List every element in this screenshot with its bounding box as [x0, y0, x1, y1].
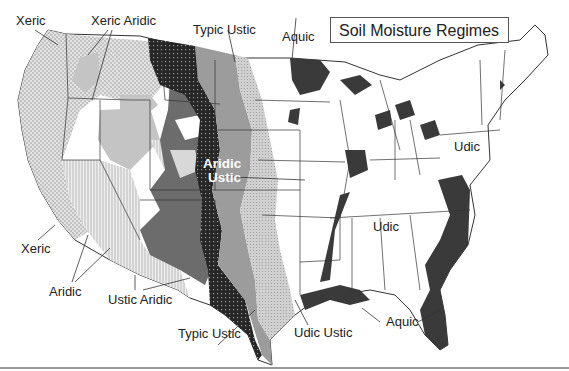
label-udic-pa: Udic [454, 140, 480, 153]
label-udic-south: Udic [373, 220, 399, 233]
label-xeric-ca: Xeric [21, 242, 51, 255]
label-aridic-sw: Aridic [49, 285, 82, 298]
label-typic-ustic-south: Typic Ustic [178, 327, 241, 340]
soil-moisture-map [0, 0, 569, 371]
label-aridic-ustic-2: Ustic [208, 171, 241, 185]
map-title: Soil Moisture Regimes [339, 22, 499, 40]
label-ustic-aridic: Ustic Aridic [108, 293, 172, 306]
map-title-box: Soil Moisture Regimes [330, 17, 509, 43]
label-xeric-aridic: Xeric Aridic [91, 14, 156, 27]
label-udic-ustic: Udic Ustic [294, 326, 353, 339]
label-aquic-south: Aquic [386, 315, 419, 328]
label-typic-ustic-north: Typic Ustic [193, 23, 256, 36]
label-xeric-nw: Xeric [16, 14, 46, 27]
label-aquic-north: Aquic [282, 30, 315, 43]
bottom-divider [0, 367, 569, 369]
